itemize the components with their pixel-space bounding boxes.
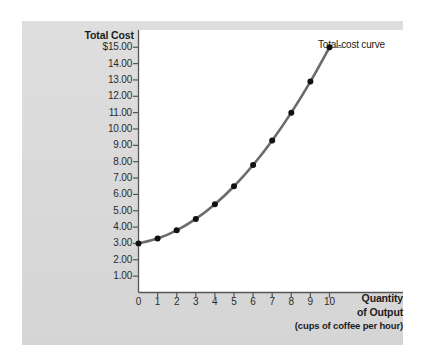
x-axis-ticks (158, 293, 330, 299)
total-cost-curve-line (139, 47, 330, 243)
data-point-marker (250, 162, 256, 168)
data-point-markers (136, 44, 333, 246)
data-point-marker (327, 44, 333, 50)
data-point-marker (193, 216, 199, 222)
data-point-marker (269, 137, 275, 143)
axis-lines (139, 30, 404, 293)
data-point-marker (155, 236, 161, 242)
data-point-marker (288, 110, 294, 116)
data-point-marker (307, 79, 313, 85)
total-cost-curve-figure: Total Cost 1.002.003.004.005.006.007.008… (0, 0, 425, 363)
data-point-marker (174, 227, 180, 233)
chart-canvas (0, 0, 425, 363)
data-point-marker (136, 240, 142, 246)
data-point-marker (212, 201, 218, 207)
data-point-marker (231, 183, 237, 189)
